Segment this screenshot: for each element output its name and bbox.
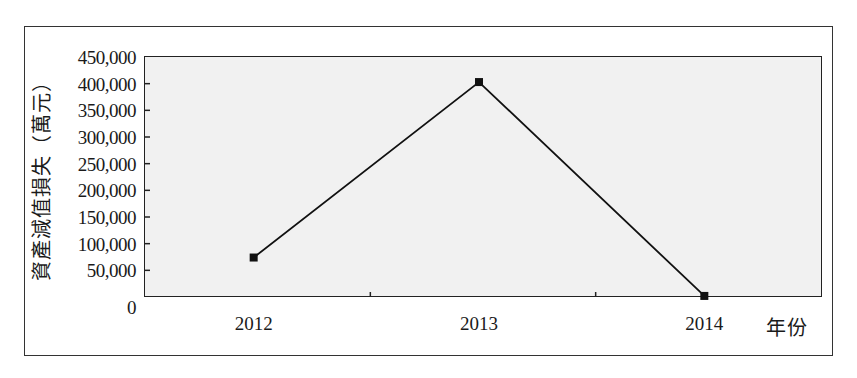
data-markers xyxy=(250,78,709,300)
tick-marks xyxy=(145,84,596,297)
data-point-marker xyxy=(475,78,483,86)
line-series xyxy=(0,0,857,378)
data-point-marker xyxy=(700,292,708,300)
data-point-marker xyxy=(250,254,258,262)
series-line xyxy=(254,82,705,296)
